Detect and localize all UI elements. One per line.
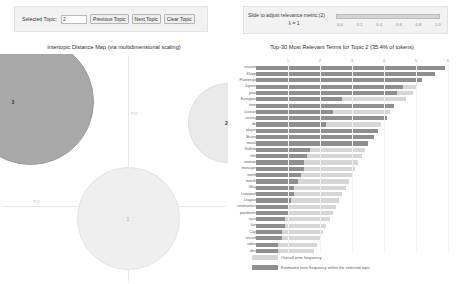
- topic-frequency-bar: [256, 211, 288, 215]
- x-axis-tick-4: 4: [383, 58, 385, 63]
- bar-row[interactable]: Bruno: [228, 135, 456, 141]
- bar-row[interactable]: manager: [228, 166, 456, 172]
- bar-row[interactable]: Lorean: [228, 109, 456, 115]
- topic-frequency-bar: [256, 224, 285, 228]
- bar-row[interactable]: Cup: [228, 229, 456, 235]
- bar-row[interactable]: video: [228, 242, 456, 248]
- bar-row[interactable]: player: [228, 128, 456, 134]
- bar-row[interactable]: Flamengo: [228, 78, 456, 84]
- bar-row[interactable]: Klopp: [228, 71, 456, 77]
- clear-topic-button[interactable]: Clear Topic: [164, 14, 195, 24]
- slider-track[interactable]: [336, 14, 440, 19]
- top-terms-barchart: 123456 seasonKloppFlamengoJupernyearEver…: [228, 52, 456, 284]
- bar-row[interactable]: coronavirus: [228, 204, 456, 210]
- term-label: pandemic: [240, 211, 256, 215]
- bar-row[interactable]: Liverpool: [228, 191, 456, 197]
- term-label: Liverpool: [241, 192, 256, 196]
- bar-row[interactable]: moral: [228, 141, 456, 147]
- legend-label: Overall term frequency: [281, 255, 321, 260]
- slider-tick-0.8: 0.8: [415, 22, 421, 27]
- topic-frequency-bar: [256, 160, 304, 164]
- slider-tick-labels: 0.00.20.40.60.81.0: [334, 22, 444, 30]
- bar-row[interactable]: world: [228, 172, 456, 178]
- bar-row[interactable]: record: [228, 236, 456, 242]
- slider-tick-0.6: 0.6: [396, 22, 402, 27]
- gridline: [320, 64, 321, 254]
- term-label: Bruno: [246, 135, 256, 139]
- topic-frequency-bar: [256, 230, 282, 234]
- term-label: time: [249, 103, 256, 107]
- barchart-legend: Overall term frequencyEstimated term fre…: [252, 253, 452, 275]
- term-label: Flamengo: [240, 78, 256, 82]
- term-label: season: [244, 65, 256, 69]
- term-label: year: [249, 91, 256, 95]
- bar-row[interactable]: season: [228, 65, 456, 71]
- bar-row[interactable]: victory: [228, 116, 456, 122]
- selected-topic-label: Selected Topic:: [22, 16, 57, 22]
- legend-item: Overall term frequency: [252, 253, 321, 261]
- topic-frequency-bar: [256, 198, 291, 202]
- gridline: [352, 64, 353, 254]
- bar-row[interactable]: race: [228, 217, 456, 223]
- topic-frequency-bar: [256, 116, 387, 120]
- relevance-metric-slider[interactable]: Slide to adjust relevance metric:(2) λ =…: [248, 12, 446, 34]
- topic-bubble-2[interactable]: 2: [188, 83, 228, 163]
- term-label: Everglow: [241, 97, 256, 101]
- term-label: Cup: [249, 230, 256, 234]
- topic-frequency-bar: [256, 78, 422, 82]
- topic-frequency-bar: [256, 129, 378, 133]
- term-label: moral: [247, 141, 256, 145]
- control-toolbar: Selected Topic: Previous Topic Next Topi…: [0, 0, 456, 38]
- bar-row[interactable]: Golfino: [228, 147, 456, 153]
- topic-controls: Selected Topic: Previous Topic Next Topi…: [22, 14, 195, 24]
- bar-row[interactable]: Everglow: [228, 97, 456, 103]
- term-label: month: [246, 179, 256, 183]
- topic-frequency-bar: [256, 110, 333, 114]
- bar-row[interactable]: pandemic: [228, 210, 456, 216]
- intertopic-distance-map[interactable]: PC2 PC1 3 2 1: [0, 54, 228, 284]
- legend-swatch: [252, 265, 278, 270]
- bar-row[interactable]: Jupern: [228, 84, 456, 90]
- term-label: video: [247, 242, 256, 246]
- topic-frequency-bar: [256, 217, 285, 221]
- topic-frequency-bar: [256, 236, 282, 240]
- legend-item: Estimated term frequency within the sele…: [252, 263, 370, 271]
- bar-row[interactable]: May: [228, 185, 456, 191]
- bar-row[interactable]: title: [228, 153, 456, 159]
- bar-row[interactable]: woman: [228, 160, 456, 166]
- next-topic-button[interactable]: Next Topic: [132, 14, 161, 24]
- intertopic-map-title: Intertopic Distance Map (via multidimens…: [0, 44, 228, 50]
- pc2-axis-label: PC2: [131, 112, 138, 116]
- topic-bubble-3-label: 3: [12, 99, 15, 105]
- bar-row[interactable]: fan: [228, 223, 456, 229]
- gridline: [288, 64, 289, 254]
- term-label: manager: [241, 166, 256, 170]
- term-label: Golfino: [244, 147, 256, 151]
- topic-frequency-bar: [256, 104, 394, 108]
- bar-row[interactable]: year: [228, 90, 456, 96]
- term-label: race: [249, 217, 256, 221]
- topic-frequency-bar: [256, 91, 397, 95]
- top-terms-title: Top-30 Most Relevant Terms for Topic 2 (…: [228, 44, 456, 50]
- lambda-value-label: λ = 1: [248, 20, 340, 26]
- topic-frequency-bar: [256, 148, 310, 152]
- bar-row[interactable]: League: [228, 198, 456, 204]
- term-label: victory: [245, 116, 256, 120]
- x-axis-tick-2: 2: [319, 58, 321, 63]
- x-axis-tick-3: 3: [351, 58, 353, 63]
- bar-row[interactable]: de: [228, 122, 456, 128]
- selected-topic-input[interactable]: [61, 15, 87, 24]
- term-label: player: [246, 128, 256, 132]
- topic-bubble-3[interactable]: 3: [0, 54, 94, 165]
- term-label: woman: [244, 160, 256, 164]
- topic-frequency-bar: [256, 243, 278, 247]
- topic-frequency-bar: [256, 122, 326, 126]
- x-axis-tick-5: 5: [415, 58, 417, 63]
- topic-frequency-bar: [256, 85, 403, 89]
- topic-bubble-1[interactable]: 1: [77, 167, 180, 270]
- slider-tick-0.4: 0.4: [376, 22, 382, 27]
- bar-row[interactable]: time: [228, 103, 456, 109]
- previous-topic-button[interactable]: Previous Topic: [90, 14, 128, 24]
- topic-frequency-bar: [256, 72, 435, 76]
- bar-row[interactable]: month: [228, 179, 456, 185]
